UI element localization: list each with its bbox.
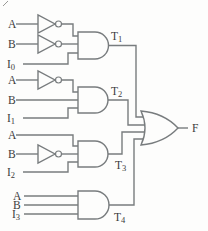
wire-t1-to-or [107,46,146,118]
not-gate-triangle [38,35,55,53]
label-t4: T4 [114,211,126,225]
label-f-output: F [192,122,198,134]
not-gate-g2-a [38,71,62,89]
not-gate-triangle [38,145,55,163]
wire-g2-i1 [23,108,80,118]
not-gate-triangle [38,71,55,89]
wire-g1-i0 [23,53,80,64]
not-gate-bubble-icon [56,77,62,83]
not-gate-bubble-icon [56,151,62,157]
input-label-g2-a: A [8,74,17,86]
or-gate [141,111,178,145]
wire-g3-a [16,135,80,146]
input-label-g2-i1: I1 [7,112,15,126]
wire-t4-to-or [107,139,146,205]
not-gate-bubble-icon [56,41,62,47]
and-gate-2 [78,87,108,113]
stray-mark [3,1,8,6]
input-labels: A B I0 A B I1 A B I2 A B I3 [7,18,22,222]
wire-t3-to-or [107,132,146,154]
input-label-g1-a: A [8,18,17,30]
not-gate-g1-b [38,35,62,53]
and-gate-4 [78,191,109,219]
wire-t2-to-or [107,100,146,125]
input-label-g3-i2: I2 [7,166,15,180]
logic-circuit-diagram: A B I0 A B I1 A B I2 A B I3 T1 T2 T3 T4 … [0,0,208,231]
and-gate-3 [78,141,108,167]
input-label-g3-a: A [8,129,17,141]
input-label-g1-i0: I0 [7,58,15,72]
wire-g1-a-not-out [60,24,80,36]
input-label-g1-b: B [8,38,16,50]
not-gate-bubble-icon [56,21,62,27]
circuit-svg: A B I0 A B I1 A B I2 A B I3 T1 T2 T3 T4 … [0,0,208,231]
not-gate-g1-a [38,15,62,33]
wire-g2-a-not-out [60,80,80,92]
not-gate-g3-b [38,145,62,163]
label-t2: T2 [111,85,122,99]
input-label-g2-b: B [8,94,16,106]
wire-g3-i2 [23,162,80,172]
input-label-g3-b: B [8,148,16,160]
not-gate-triangle [38,15,55,33]
label-t1: T1 [111,30,122,44]
and-gate-1 [78,32,109,59]
gate-output-labels: T1 T2 T3 T4 [111,30,126,225]
label-t3: T3 [115,159,126,173]
